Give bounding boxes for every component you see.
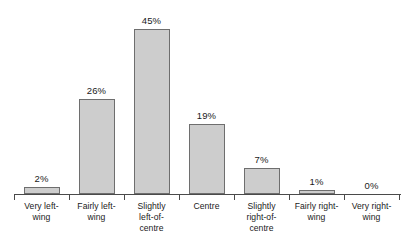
category-label-line: Fairly left- — [69, 201, 124, 212]
category-label-line: right-of- — [234, 212, 289, 223]
x-axis-category-label: Slightlyleft-of-centre — [124, 201, 179, 235]
category-label-line: Centre — [179, 201, 234, 212]
x-axis-category-label: Very left-wing — [14, 201, 69, 223]
bar-group: 26% — [69, 0, 124, 194]
bar-value-label: 45% — [142, 16, 161, 26]
bar — [189, 124, 225, 194]
bar — [24, 187, 60, 194]
x-axis-tick — [399, 194, 400, 200]
category-label-line: centre — [234, 223, 289, 234]
bar-group: 19% — [179, 0, 234, 194]
category-label-line: Slightly — [234, 201, 289, 212]
category-label-line: Fairly right- — [289, 201, 344, 212]
bar — [244, 168, 280, 194]
bar-value-label: 7% — [255, 155, 269, 165]
bar-group: 1% — [289, 0, 344, 194]
bar-group: 2% — [14, 0, 69, 194]
bar-value-label: 26% — [87, 86, 106, 96]
bar-chart: 2%26%45%19%7%1%0% Very left-wingFairly l… — [0, 0, 418, 251]
x-axis-category-label: Slightlyright-of-centre — [234, 201, 289, 235]
x-axis-line — [14, 194, 401, 195]
bar-group: 45% — [124, 0, 179, 194]
category-label-line: wing — [344, 212, 399, 223]
x-axis-category-label: Centre — [179, 201, 234, 212]
bar-value-label: 0% — [365, 181, 379, 191]
x-axis-tick-labels: Very left-wingFairly left-wingSlightlyle… — [14, 201, 400, 251]
x-axis-tick — [124, 194, 125, 200]
category-label-line: Very left- — [14, 201, 69, 212]
category-label-line: wing — [289, 212, 344, 223]
x-axis-tick — [344, 194, 345, 200]
category-label-line: Very right- — [344, 201, 399, 212]
x-axis-tick — [289, 194, 290, 200]
category-label-line: left-of- — [124, 212, 179, 223]
bar-value-label: 1% — [310, 177, 324, 187]
bar-value-label: 2% — [35, 174, 49, 184]
bar-group: 0% — [344, 0, 399, 194]
x-axis-category-label: Very right-wing — [344, 201, 399, 223]
x-axis-tick — [69, 194, 70, 200]
x-axis-category-label: Fairly left-wing — [69, 201, 124, 223]
x-axis-tick — [234, 194, 235, 200]
x-axis-tick — [14, 194, 15, 200]
category-label-line: Slightly — [124, 201, 179, 212]
x-axis-category-label: Fairly right-wing — [289, 201, 344, 223]
category-label-line: wing — [69, 212, 124, 223]
x-axis-tick — [179, 194, 180, 200]
bar-group: 7% — [234, 0, 289, 194]
bar — [134, 29, 170, 194]
plot-area: 2%26%45%19%7%1%0% — [14, 0, 400, 194]
category-label-line: wing — [14, 212, 69, 223]
category-label-line: centre — [124, 223, 179, 234]
bar — [79, 99, 115, 194]
bar-value-label: 19% — [197, 111, 216, 121]
